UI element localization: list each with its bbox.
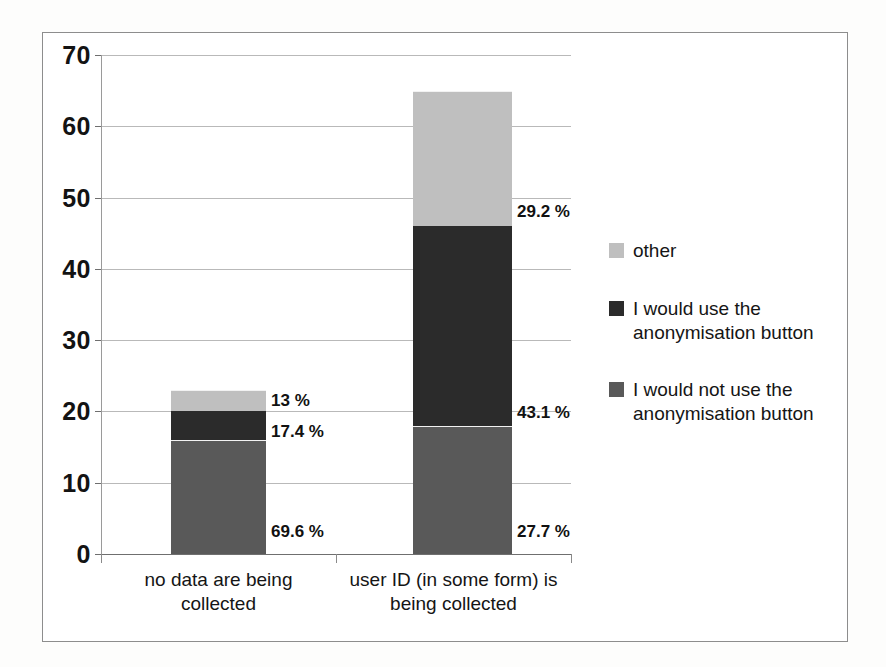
y-tick-label-50: 50	[62, 183, 91, 212]
legend-label-would-use: I would use the anonymisation button	[633, 297, 814, 345]
category-label-user-id-collected: user ID (in some form) is being collecte…	[336, 568, 571, 616]
legend-label-would-not-use: I would not use the anonymisation button	[633, 378, 814, 426]
y-tick-label-0: 0	[77, 540, 91, 569]
data-label-bar2-would-use: 43.1 %	[517, 403, 570, 423]
legend-label-line: anonymisation button	[633, 403, 814, 424]
data-label-bar1-other: 13 %	[271, 391, 310, 411]
category-tick-right	[571, 554, 572, 563]
legend-label-line: I would not use the	[633, 379, 793, 400]
legend-swatch-would-not-use-icon	[609, 382, 624, 397]
gridline-70: 70	[101, 55, 571, 56]
data-label-bar1-would-not-use: 69.6 %	[271, 522, 324, 542]
data-label-bar2-other: 29.2 %	[517, 202, 570, 222]
plot-area: 70 60 50 40 30 20 10 0	[101, 55, 571, 554]
bar-segment-would-not-use[interactable]	[171, 440, 266, 554]
legend-label-line: I would use the	[633, 298, 761, 319]
bar-segment-other[interactable]	[171, 390, 266, 411]
y-tick-label-30: 30	[62, 326, 91, 355]
bar-segment-other[interactable]	[413, 91, 512, 227]
y-tick-label-60: 60	[62, 112, 91, 141]
value-axis-line	[101, 55, 102, 554]
data-label-bar2-would-not-use: 27.7 %	[517, 522, 570, 542]
y-tick-label-20: 20	[62, 397, 91, 426]
bar-no-data-collected[interactable]	[171, 390, 266, 554]
bar-segment-would-use[interactable]	[171, 411, 266, 440]
legend-swatch-other-icon	[609, 243, 624, 258]
legend-item-other[interactable]: other	[609, 239, 841, 263]
bar-user-id-collected[interactable]	[413, 91, 512, 554]
y-tick-label-70: 70	[62, 41, 91, 70]
chart-frame: 70 60 50 40 30 20 10 0	[42, 32, 848, 642]
y-tick-label-40: 40	[62, 254, 91, 283]
bar-segment-would-use[interactable]	[413, 226, 512, 426]
category-tick-left	[101, 554, 102, 563]
category-label-line: collected	[101, 592, 336, 616]
chart-legend: other I would use the anonymisation butt…	[609, 239, 841, 460]
category-label-no-data-collected: no data are being collected	[101, 568, 336, 616]
bar-segment-would-not-use[interactable]	[413, 426, 512, 554]
legend-item-would-use[interactable]: I would use the anonymisation button	[609, 297, 841, 345]
category-label-line: user ID (in some form) is	[336, 568, 571, 592]
legend-item-would-not-use[interactable]: I would not use the anonymisation button	[609, 378, 841, 426]
category-label-line: being collected	[336, 592, 571, 616]
legend-label-other: other	[633, 239, 676, 263]
legend-label-line: other	[633, 240, 676, 261]
category-label-line: no data are being	[101, 568, 336, 592]
data-label-bar1-would-use: 17.4 %	[271, 422, 324, 442]
category-tick-mid	[336, 554, 337, 563]
legend-label-line: anonymisation button	[633, 322, 814, 343]
y-tick-label-10: 10	[62, 468, 91, 497]
legend-swatch-would-use-icon	[609, 301, 624, 316]
